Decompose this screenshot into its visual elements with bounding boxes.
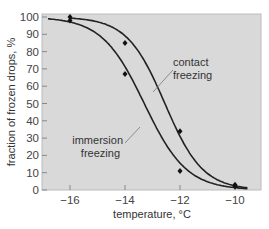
x-tick-label: −10	[225, 194, 245, 206]
x-tick-label: −12	[170, 194, 190, 206]
x-tick-label: −14	[115, 194, 135, 206]
y-tick-label: 40	[26, 115, 39, 127]
immersion-label-line2: freezing	[81, 147, 120, 159]
y-tick-label: 90	[26, 28, 39, 40]
contact-label-line2: freezing	[173, 69, 212, 81]
y-tick-label: 60	[26, 80, 39, 92]
y-tick-label: 10	[26, 167, 39, 179]
x-tick-label: −16	[60, 194, 80, 206]
y-tick-label: 100	[20, 11, 39, 23]
chart: 0102030405060708090100 −16−14−12−10 frac…	[0, 0, 269, 229]
y-tick-label: 80	[26, 46, 39, 58]
y-tick-label: 0	[33, 184, 39, 196]
y-tick-label: 30	[26, 132, 39, 144]
contact-label-line1: contact	[173, 56, 208, 68]
y-tick-label: 70	[26, 63, 39, 75]
y-tick-label: 50	[26, 98, 39, 110]
x-axis-label: temperature, °C	[113, 208, 191, 220]
plot-area	[42, 14, 261, 190]
y-axis-label: fraction of frozen drops, %	[5, 38, 17, 167]
immersion-label-line1: immersion	[72, 134, 123, 146]
y-tick-label: 20	[26, 149, 39, 161]
